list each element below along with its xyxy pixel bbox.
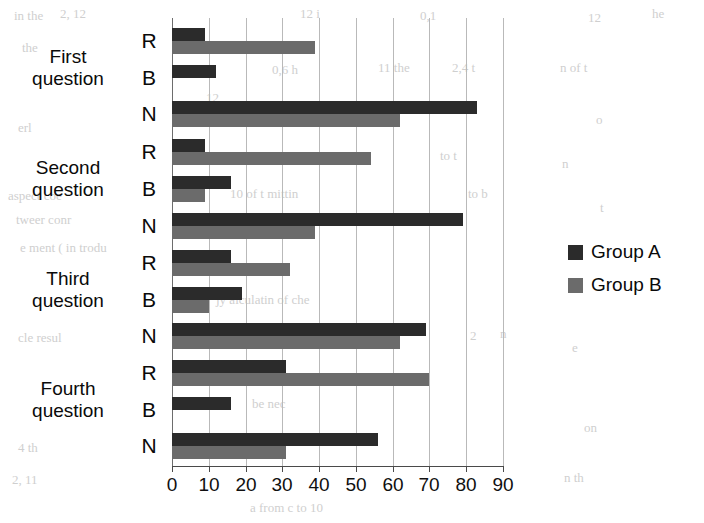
x-axis-tick-10 [209,466,210,472]
gridline-80 [466,18,467,466]
bleed-text: 2, 12 [60,6,86,22]
category-label-r-0: R [136,29,162,53]
category-label-b-10: B [136,398,162,422]
bar-a-b-1 [172,65,216,78]
bar-b-r-3 [172,152,371,165]
x-axis-tick-label-30: 30 [262,474,302,496]
bar-b-b-4 [172,189,205,202]
legend-item-group-a: Group A [568,241,698,263]
gridline-90 [503,18,504,466]
legend-label: Group A [591,241,661,263]
bleed-text: n [562,156,569,172]
category-label-b-1: B [136,66,162,90]
chart-legend: Group AGroup B [568,241,698,307]
bleed-text: a from c to 10 [250,500,323,516]
x-axis-tick-label-40: 40 [299,474,339,496]
gridline-50 [356,18,357,466]
bar-a-b-10 [172,397,231,410]
x-axis-tick-label-10: 10 [189,474,229,496]
x-axis-tick-label-70: 70 [409,474,449,496]
bar-b-b-7 [172,300,209,313]
gridline-70 [429,18,430,466]
question-group-label-1: Firstquestion [8,46,128,90]
question-group-label-line1: First [8,46,128,68]
bleed-text: t [600,200,604,216]
x-axis-tick-90 [503,466,504,472]
bar-a-r-3 [172,139,205,152]
legend-label: Group B [591,274,662,296]
x-axis-tick-70 [429,466,430,472]
category-label-b-7: B [136,288,162,312]
x-axis-tick-label-0: 0 [152,474,192,496]
category-label-n-2: N [136,102,162,126]
bleed-text: o [596,112,603,128]
legend-swatch-icon [568,278,583,293]
bar-a-n-5 [172,213,463,226]
question-group-label-line2: question [8,179,128,201]
category-label-r-3: R [136,140,162,164]
question-group-label-3: Thirdquestion [8,268,128,312]
bleed-text: n of t [560,60,587,76]
category-label-b-4: B [136,177,162,201]
category-label-n-11: N [136,434,162,458]
x-axis-tick-0 [172,466,173,472]
x-axis-tick-label-80: 80 [446,474,486,496]
x-axis-tick-label-60: 60 [373,474,413,496]
x-axis-tick-20 [246,466,247,472]
x-axis-tick-label-90: 90 [483,474,523,496]
legend-swatch-icon [568,245,583,260]
x-axis-tick-label-50: 50 [336,474,376,496]
x-axis-tick-40 [319,466,320,472]
gridline-20 [246,18,247,466]
category-label-r-6: R [136,251,162,275]
bleed-text: n th [564,470,584,486]
bar-a-n-2 [172,101,477,114]
question-group-label-line1: Fourth [8,378,128,400]
category-label-n-5: N [136,214,162,238]
bar-b-n-5 [172,226,315,239]
bar-b-n-8 [172,336,400,349]
gridline-60 [393,18,394,466]
question-group-label-line1: Second [8,157,128,179]
bar-b-r-6 [172,263,290,276]
category-label-n-8: N [136,324,162,348]
question-group-label-line2: question [8,400,128,422]
bleed-text: 12 [588,10,601,26]
bar-a-b-7 [172,287,242,300]
x-axis-tick-label-20: 20 [226,474,266,496]
category-label-r-9: R [136,361,162,385]
bleed-text: on [584,420,597,436]
bar-b-r-9 [172,373,429,386]
question-group-label-line2: question [8,68,128,90]
bar-a-r-9 [172,360,286,373]
question-group-label-line2: question [8,290,128,312]
bleed-text: 2, 11 [12,472,38,488]
bleed-text: e [572,340,578,356]
bleed-text: tweer conr [16,212,71,228]
bar-a-b-4 [172,176,231,189]
x-axis-line [172,466,504,467]
bleed-text: in the [14,8,43,24]
x-axis-tick-60 [393,466,394,472]
legend-item-group-b: Group B [568,274,698,296]
bleed-text: he [652,6,664,22]
question-group-label-4: Fourthquestion [8,378,128,422]
bar-a-r-6 [172,250,231,263]
question-group-label-2: Secondquestion [8,157,128,201]
bar-a-n-8 [172,323,426,336]
bleed-text: 4 th [18,440,38,456]
bar-b-r-0 [172,41,315,54]
gridline-30 [282,18,283,466]
bar-a-r-0 [172,28,205,41]
question-group-label-line1: Third [8,268,128,290]
bar-b-n-2 [172,114,400,127]
bar-b-n-11 [172,446,286,459]
x-axis-tick-80 [466,466,467,472]
bar-a-n-11 [172,433,378,446]
bleed-text: e ment ( in trodu [20,240,107,256]
gridline-40 [319,18,320,466]
bleed-text: cle resul [18,330,62,346]
x-axis-tick-30 [282,466,283,472]
bleed-text: erl [18,120,32,136]
x-axis-tick-50 [356,466,357,472]
